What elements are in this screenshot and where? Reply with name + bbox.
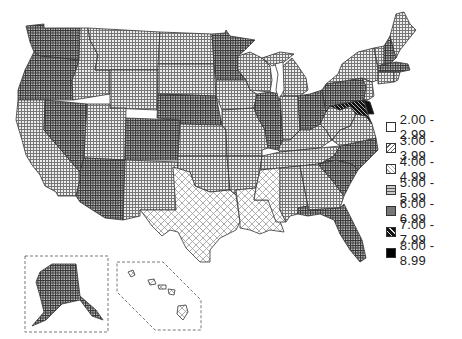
hawaii-island-kauai (128, 270, 135, 277)
legend-item: 8.00 - 8.99 (386, 242, 462, 263)
swatch-light-crosshatch-icon (386, 164, 396, 174)
state-sd (158, 64, 216, 96)
alaska-inset (25, 256, 108, 332)
hawaii-island-maui (168, 289, 175, 295)
swatch-empty-icon (386, 122, 396, 132)
hawaii-inset (117, 262, 201, 330)
hawaii-island-oahu (148, 279, 156, 285)
swatch-light-grid-icon (386, 185, 396, 195)
swatch-dark-diagonal-icon (386, 227, 396, 237)
state-mt (88, 28, 160, 70)
state-nd (158, 32, 214, 64)
state-ak (32, 264, 103, 326)
state-az (76, 158, 125, 220)
state-ks (178, 124, 227, 156)
state-ny (326, 48, 378, 84)
legend-label: 8.00 - 8.99 (400, 238, 462, 268)
state-ct (378, 72, 394, 84)
state-wy (110, 70, 158, 110)
swatch-diagonal-hatch-icon (386, 143, 396, 153)
state-ri (394, 72, 400, 82)
hawaii-island-big (177, 305, 188, 320)
swatch-solid-black-icon (386, 248, 396, 258)
state-me (390, 12, 416, 58)
hawaii-island-molokai (158, 285, 166, 289)
swatch-dense-grid-icon (386, 206, 396, 216)
state-ut (84, 104, 126, 160)
state-or (18, 52, 79, 100)
legend: 2.00 - 2.99 3.00 - 3.99 4.00 - 4.99 5.00… (386, 116, 462, 263)
state-co (125, 118, 180, 160)
state-fl (298, 204, 366, 262)
